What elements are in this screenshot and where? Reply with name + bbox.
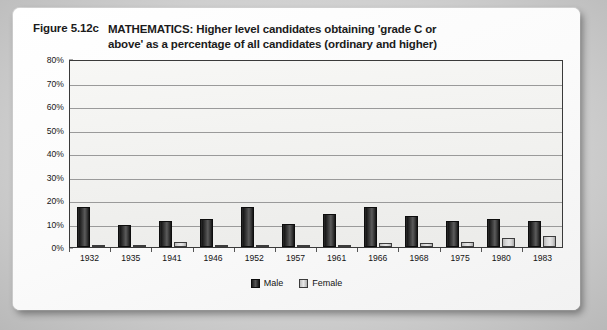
- figure-number-label: Figure 5.12c: [33, 22, 108, 34]
- x-axis-tick-label: 1961: [327, 253, 346, 263]
- bar-female-1961: [338, 245, 351, 247]
- x-axis-tick: 1968: [398, 248, 439, 270]
- bar-group: [398, 61, 439, 247]
- x-axis-tick-mark: [151, 248, 152, 252]
- bar-male-1946: [200, 219, 213, 247]
- x-axis-tick-mark: [440, 248, 441, 252]
- chart-legend: MaleFemale: [13, 278, 580, 288]
- x-axis-tick-label: 1975: [451, 253, 470, 263]
- x-axis-tick-mark: [110, 248, 111, 252]
- bar-male-1941: [159, 221, 172, 247]
- bar-group: [275, 61, 316, 247]
- x-axis-tick-mark: [69, 248, 70, 252]
- legend-swatch-male-icon: [251, 279, 260, 288]
- bar-male-1966: [364, 207, 377, 247]
- bar-male-1968: [405, 216, 418, 247]
- figure-card: Figure 5.12c MATHEMATICS: Higher level c…: [13, 8, 580, 310]
- x-axis-tick-mark: [481, 248, 482, 252]
- y-axis-tick-label: 0%: [52, 243, 64, 253]
- y-axis-labels: 80%70%60%50%40%30%20%10%0%: [27, 60, 69, 248]
- x-axis-tick-label: 1983: [533, 253, 552, 263]
- y-axis-tick-label: 20%: [47, 196, 64, 206]
- x-axis-tick: 1980: [481, 248, 522, 270]
- x-axis-tick-mark: [193, 248, 194, 252]
- x-axis-tick-mark: [398, 248, 399, 252]
- bar-female-1952: [256, 245, 269, 247]
- bar-female-1932: [92, 245, 105, 247]
- bar-group: [521, 61, 562, 247]
- bar-group: [70, 61, 111, 247]
- bar-male-1983: [528, 221, 541, 247]
- x-axis-tick: 1932: [69, 248, 110, 270]
- bar-male-1952: [241, 207, 254, 247]
- bar-male-1957: [282, 224, 295, 248]
- bar-male-1975: [446, 221, 459, 247]
- bar-female-1966: [379, 243, 392, 247]
- x-axis-tick-mark: [234, 248, 235, 252]
- bar-female-1968: [420, 243, 433, 247]
- x-axis-tick-label: 1935: [121, 253, 140, 263]
- figure-title-line-2: above' as a percentage of all candidates…: [108, 37, 437, 52]
- x-axis-tick-label: 1966: [368, 253, 387, 263]
- x-axis-tick-mark: [316, 248, 317, 252]
- x-axis-tick-mark: [275, 248, 276, 252]
- y-axis-tick-label: 30%: [47, 173, 64, 183]
- bar-group: [193, 61, 234, 247]
- x-axis-tick-mark: [357, 248, 358, 252]
- x-axis-tick-label: 1932: [80, 253, 99, 263]
- bar-group: [111, 61, 152, 247]
- x-axis-tick-label: 1980: [492, 253, 511, 263]
- figure-title: MATHEMATICS: Higher level candidates obt…: [108, 22, 437, 51]
- x-axis-tick-label: 1957: [286, 253, 305, 263]
- x-axis-tick: 1957: [275, 248, 316, 270]
- x-axis-tick-label: 1941: [162, 253, 181, 263]
- bar-female-1983: [543, 236, 556, 247]
- y-axis-tick-label: 70%: [47, 79, 64, 89]
- y-axis-tick-label: 60%: [47, 102, 64, 112]
- x-axis-tick: 1952: [234, 248, 275, 270]
- bar-male-1935: [118, 225, 131, 247]
- bar-group: [357, 61, 398, 247]
- x-axis-tick-label: 1968: [409, 253, 428, 263]
- y-axis-tick-label: 40%: [47, 149, 64, 159]
- bar-group: [316, 61, 357, 247]
- x-axis-labels: 1932193519411946195219571961196619681975…: [69, 248, 563, 270]
- figure-title-block: Figure 5.12c MATHEMATICS: Higher level c…: [33, 22, 563, 51]
- bar-female-1980: [502, 238, 515, 247]
- y-axis-tick-label: 80%: [47, 55, 64, 65]
- bar-series-group: [70, 61, 562, 247]
- bar-group: [152, 61, 193, 247]
- plot-area: [69, 60, 563, 248]
- bar-female-1941: [174, 242, 187, 247]
- bar-group: [439, 61, 480, 247]
- x-axis-tick-label: 1946: [204, 253, 223, 263]
- bar-female-1957: [297, 245, 310, 247]
- figure-title-line-1: MATHEMATICS: Higher level candidates obt…: [108, 22, 437, 37]
- x-axis-tick: 1961: [316, 248, 357, 270]
- y-axis-tick-label: 10%: [47, 220, 64, 230]
- x-axis-tick-mark: [522, 248, 523, 252]
- legend-label: Male: [264, 278, 284, 288]
- legend-item-female[interactable]: Female: [299, 278, 342, 288]
- legend-swatch-female-icon: [299, 279, 308, 288]
- bar-group: [234, 61, 275, 247]
- x-axis-tick: 1966: [357, 248, 398, 270]
- x-axis-tick: 1946: [193, 248, 234, 270]
- bar-male-1932: [77, 207, 90, 247]
- chart-container: 80%70%60%50%40%30%20%10%0% 1932193519411…: [13, 60, 580, 310]
- bar-male-1980: [487, 219, 500, 247]
- bar-female-1935: [133, 245, 146, 247]
- y-axis-tick-label: 50%: [47, 126, 64, 136]
- x-axis-tick: 1983: [522, 248, 563, 270]
- legend-label: Female: [312, 278, 342, 288]
- bar-female-1946: [215, 245, 228, 247]
- figure-card-surface: Figure 5.12c MATHEMATICS: Higher level c…: [13, 8, 580, 310]
- bar-group: [480, 61, 521, 247]
- bar-female-1975: [461, 242, 474, 247]
- x-axis-tick: 1935: [110, 248, 151, 270]
- bar-male-1961: [323, 214, 336, 247]
- x-axis-tick: 1975: [440, 248, 481, 270]
- legend-item-male[interactable]: Male: [251, 278, 284, 288]
- x-axis-tick: 1941: [151, 248, 192, 270]
- x-axis-tick-label: 1952: [245, 253, 264, 263]
